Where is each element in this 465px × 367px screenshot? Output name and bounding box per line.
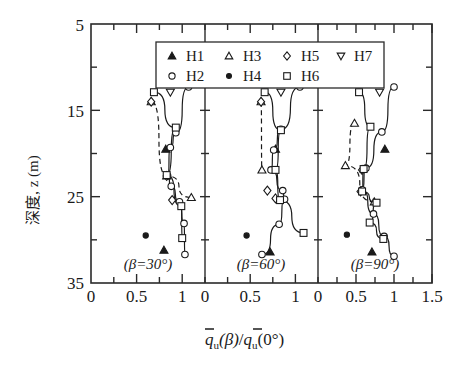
legend-marker-h4 — [227, 74, 232, 79]
data-point-h6 — [277, 197, 284, 204]
x-tick-label: 0 — [314, 287, 323, 306]
data-point-h7 — [166, 89, 174, 96]
y-tick-label-35: 35 — [67, 274, 84, 293]
series-line-h6 — [154, 92, 182, 238]
x-tick-label: 1 — [178, 287, 187, 306]
data-point-h6 — [277, 127, 284, 134]
data-point-h6 — [172, 124, 179, 131]
data-point-h4 — [143, 233, 148, 238]
x-tick-label: 0.5 — [126, 287, 147, 306]
data-point-h6 — [179, 235, 186, 242]
data-point-h1 — [381, 145, 389, 152]
chart-svg: 深度, z (m) 5 15 25 35 00.5100.5100.511.5 … — [0, 0, 465, 367]
panel-series-group — [143, 84, 195, 258]
legend-label-h4: H4 — [243, 68, 262, 84]
data-point-h6 — [360, 166, 367, 173]
data-point-h3 — [350, 119, 358, 126]
x-tick-label: 1.5 — [421, 287, 442, 306]
x-tick-label: 0.5 — [240, 287, 261, 306]
legend-label-h1: H1 — [186, 48, 204, 64]
data-point-h4 — [244, 233, 249, 238]
legend-marker-h6 — [284, 73, 291, 80]
data-point-h2 — [379, 129, 386, 136]
series-line-h3 — [261, 102, 262, 170]
data-point-h2 — [270, 147, 277, 154]
data-point-h1 — [368, 248, 376, 255]
x-tick-label: 1 — [390, 287, 399, 306]
data-point-h6 — [366, 219, 373, 226]
data-point-h6 — [178, 203, 185, 210]
y-axis-title-text: 深度, z (m) — [25, 155, 42, 225]
panel-label-90: (β=90°) — [351, 256, 400, 273]
x-tick-labels: 00.5100.5100.511.5 — [87, 287, 443, 306]
chart-data-layer — [143, 84, 397, 260]
legend-label-h2: H2 — [186, 68, 204, 84]
x-tick-label: 0.5 — [345, 287, 366, 306]
x-tick-label: 0 — [201, 287, 210, 306]
data-point-h3 — [341, 162, 349, 169]
data-point-h2 — [391, 84, 398, 91]
series-line-h2 — [168, 87, 189, 254]
data-point-h6 — [367, 123, 374, 130]
legend-label-h5: H5 — [301, 48, 319, 64]
y-axis-title: 深度, z (m) — [25, 155, 42, 225]
x-tick-label: 1 — [291, 287, 300, 306]
data-point-h6 — [163, 172, 170, 179]
data-point-h2 — [167, 144, 174, 151]
y-tick-label-15: 15 — [67, 102, 84, 121]
data-point-h1 — [160, 246, 168, 253]
x-axis-title-group: qu(β)/qu(0°) — [205, 330, 284, 351]
data-point-h2 — [168, 183, 175, 190]
data-point-h6 — [261, 89, 268, 96]
legend-label-h3: H3 — [243, 48, 261, 64]
data-point-h6 — [356, 89, 363, 96]
panel-series-group — [244, 84, 307, 258]
data-point-h7 — [277, 89, 285, 96]
data-point-h2 — [181, 220, 188, 227]
x-title-beta: (β) — [219, 330, 239, 349]
data-point-h2 — [182, 251, 189, 258]
data-point-h2 — [279, 187, 286, 194]
data-point-h6 — [359, 188, 366, 195]
data-point-h2 — [370, 211, 377, 218]
data-point-h6 — [380, 236, 387, 243]
data-point-h6 — [150, 89, 157, 96]
panel-label-30: (β=30°) — [124, 256, 173, 273]
data-point-h3 — [258, 166, 266, 173]
data-point-h6 — [272, 166, 279, 173]
legend-label-h7: H7 — [354, 48, 373, 64]
legend-marker-h2 — [169, 73, 175, 79]
x-axis-title: qu(β)/qu(0°) — [205, 329, 284, 351]
data-point-h7 — [376, 89, 384, 96]
data-point-h2 — [276, 221, 283, 228]
y-tick-label-25: 25 — [67, 188, 84, 207]
data-point-h5 — [264, 186, 271, 195]
y-tick-label-5: 5 — [76, 16, 85, 35]
x-title-zero: (0°) — [258, 330, 285, 349]
panel-label-60: (β=60°) — [237, 256, 286, 273]
legend-label-h6: H6 — [301, 68, 320, 84]
figure-container: 深度, z (m) 5 15 25 35 00.5100.5100.511.5 … — [0, 0, 465, 367]
data-point-h6 — [373, 199, 380, 206]
x-tick-label: 0 — [87, 287, 96, 306]
legend: H1 H3 H5 H7 H2 H4 H6 — [156, 42, 384, 88]
series-line-h6 — [265, 92, 304, 233]
data-point-h4 — [344, 232, 349, 237]
data-point-h6 — [300, 229, 307, 236]
panel-series-group — [341, 84, 397, 260]
